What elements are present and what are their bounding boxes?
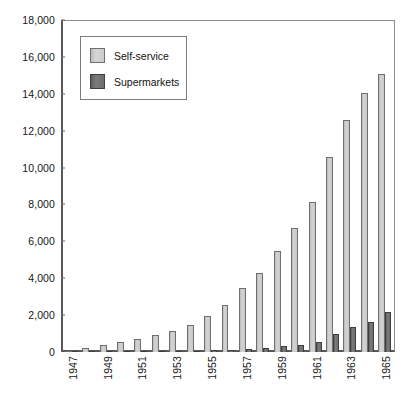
bar-chart: 02,0004,0006,0008,00010,00012,00014,0001… — [0, 0, 413, 416]
bar-group — [307, 20, 324, 352]
bar-supermarkets — [176, 351, 182, 352]
bar-self-service — [274, 251, 281, 352]
y-axis-tick-mark — [61, 204, 65, 205]
bar-supermarkets — [350, 327, 356, 352]
bar-supermarkets — [298, 345, 304, 352]
bar-supermarkets — [316, 342, 322, 352]
bar-self-service — [152, 335, 159, 352]
bar-group — [272, 20, 289, 352]
bar-supermarkets — [246, 349, 252, 352]
y-axis-tick-label: 4,000 — [28, 272, 55, 284]
y-axis-tick-mark — [61, 241, 65, 242]
bar-group — [342, 20, 359, 352]
bar-supermarkets — [211, 350, 217, 352]
y-axis-tick-mark — [61, 167, 65, 168]
legend-entry-supermarkets: Supermarkets — [90, 74, 179, 89]
x-axis-tick-label: 1963 — [345, 356, 357, 380]
bar-self-service — [82, 348, 89, 352]
bar-supermarkets — [141, 351, 147, 352]
bar-supermarkets — [281, 346, 287, 352]
x-axis-tick-label: 1953 — [171, 356, 183, 380]
bar-self-service — [326, 157, 333, 352]
bar-supermarkets — [385, 312, 391, 352]
bar-self-service — [378, 74, 385, 353]
y-axis-tick-mark — [61, 130, 65, 131]
x-axis-tick-label: 1949 — [102, 356, 114, 380]
bar-self-service — [256, 273, 263, 352]
bar-supermarkets — [263, 348, 269, 352]
y-axis: 02,0004,0006,0008,00010,00012,00014,0001… — [0, 20, 55, 352]
x-axis: 1947194919511953195519571959196119631965 — [63, 356, 394, 414]
bar-self-service — [222, 305, 229, 352]
x-axis-tick-label: 1955 — [206, 356, 218, 380]
y-axis-tick-label: 2,000 — [28, 309, 55, 321]
legend-swatch-icon-supermarkets — [90, 74, 105, 89]
bar-group — [289, 20, 306, 352]
bar-supermarkets — [333, 334, 339, 352]
y-axis-tick-label: 6,000 — [28, 235, 55, 247]
bar-self-service — [65, 351, 72, 352]
bar-self-service — [361, 93, 368, 352]
bar-supermarkets — [368, 322, 374, 352]
y-axis-tick-mark — [61, 20, 65, 21]
bar-group — [220, 20, 237, 352]
y-axis-tick-mark — [61, 56, 65, 57]
x-axis-tick-label: 1957 — [241, 356, 253, 380]
bar-self-service — [204, 316, 211, 352]
bar-group — [237, 20, 254, 352]
y-axis-tick-mark — [61, 315, 65, 316]
bar-supermarkets — [159, 351, 165, 352]
legend-label-supermarkets: Supermarkets — [114, 76, 179, 88]
bar-supermarkets — [72, 351, 78, 352]
bar-group — [63, 20, 80, 352]
bar-self-service — [343, 120, 350, 352]
bar-supermarkets — [228, 350, 234, 352]
bar-self-service — [239, 288, 246, 352]
bar-self-service — [117, 342, 124, 352]
bar-supermarkets — [124, 351, 130, 352]
bar-group — [202, 20, 219, 352]
y-axis-tick-label: 0 — [49, 346, 55, 358]
legend-swatch-icon-self-service — [90, 48, 105, 63]
bar-group — [255, 20, 272, 352]
bar-self-service — [134, 339, 141, 352]
y-axis-tick-mark — [61, 278, 65, 279]
bar-self-service — [169, 331, 176, 352]
legend-label-self-service: Self-service — [114, 50, 169, 62]
y-axis-tick-label: 16,000 — [22, 51, 55, 63]
bar-group — [324, 20, 341, 352]
x-axis-tick-label: 1965 — [380, 356, 392, 380]
x-axis-tick-label: 1959 — [276, 356, 288, 380]
bar-supermarkets — [194, 351, 200, 352]
y-axis-tick-label: 18,000 — [22, 14, 55, 26]
bar-group — [185, 20, 202, 352]
legend-entry-self-service: Self-service — [90, 48, 169, 63]
x-axis-tick-label: 1961 — [311, 356, 323, 380]
y-axis-tick-label: 12,000 — [22, 125, 55, 137]
y-axis-tick-label: 10,000 — [22, 162, 55, 174]
bar-self-service — [291, 228, 298, 353]
chart-legend: Self-service Supermarkets — [80, 36, 187, 100]
bar-self-service — [309, 202, 316, 352]
bar-self-service — [187, 325, 194, 352]
bar-group — [359, 20, 376, 352]
y-axis-tick-label: 14,000 — [22, 88, 55, 100]
x-axis-tick-label: 1947 — [67, 356, 79, 380]
y-axis-tick-label: 8,000 — [28, 198, 55, 210]
bar-supermarkets — [107, 351, 113, 352]
bar-group — [377, 20, 394, 352]
x-axis-tick-label: 1951 — [136, 356, 148, 380]
bar-self-service — [100, 345, 107, 352]
y-axis-tick-mark — [61, 93, 65, 94]
bar-supermarkets — [89, 351, 95, 352]
